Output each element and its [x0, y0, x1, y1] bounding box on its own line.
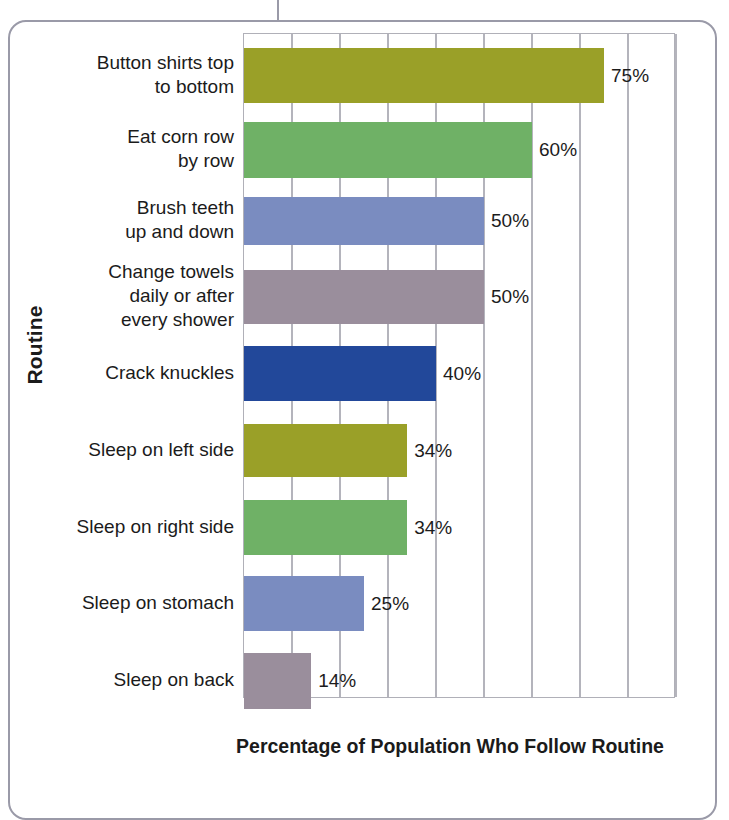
category-label: Eat corn row by row	[4, 125, 243, 173]
bar-value-label: 14%	[311, 670, 356, 692]
plot-area: 75%60%50%50%40%34%34%25%14%	[243, 33, 675, 698]
category-label: Change towels daily or after every showe…	[4, 260, 243, 332]
category-label: Button shirts top to bottom	[4, 51, 243, 99]
bar-row: 34%	[244, 500, 674, 555]
bar-value-label: 25%	[364, 593, 409, 615]
bar-value-label: 34%	[407, 440, 452, 462]
bar	[244, 424, 407, 477]
bar	[244, 500, 407, 555]
category-axis-labels: Button shirts top to bottomEat corn row …	[0, 33, 243, 698]
category-label: Sleep on left side	[4, 438, 243, 462]
bar-value-label: 75%	[604, 65, 649, 87]
bar	[244, 346, 436, 401]
category-label: Sleep on right side	[4, 515, 243, 539]
bar-row: 14%	[244, 653, 674, 709]
category-label: Crack knuckles	[4, 361, 243, 385]
bar	[244, 270, 484, 324]
gridline	[675, 34, 677, 697]
bar-row: 50%	[244, 197, 674, 245]
bar	[244, 653, 311, 709]
bar-value-label: 50%	[484, 286, 529, 308]
bar-row: 50%	[244, 270, 674, 324]
bar-row: 34%	[244, 424, 674, 477]
bar-value-label: 40%	[436, 363, 481, 385]
category-label: Sleep on stomach	[4, 591, 243, 615]
bar-value-label: 34%	[407, 517, 452, 539]
bar-value-label: 60%	[532, 139, 577, 161]
category-label: Sleep on back	[4, 668, 243, 692]
bar	[244, 48, 604, 103]
x-axis-title: Percentage of Population Who Follow Rout…	[180, 735, 720, 758]
bar	[244, 122, 532, 178]
bar	[244, 197, 484, 245]
bar-value-label: 50%	[484, 210, 529, 232]
bar-row: 60%	[244, 122, 674, 178]
bar-row: 25%	[244, 576, 674, 631]
category-label: Brush teeth up and down	[4, 196, 243, 244]
bar	[244, 576, 364, 631]
bar-row: 40%	[244, 346, 674, 401]
bar-row: 75%	[244, 48, 674, 103]
